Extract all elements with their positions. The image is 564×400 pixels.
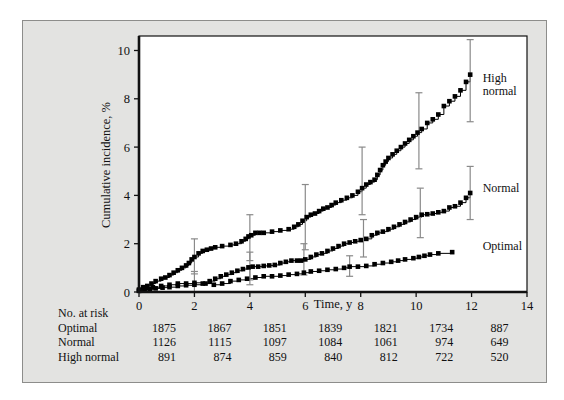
data-point-marker	[292, 224, 297, 229]
data-point-marker	[468, 191, 473, 196]
data-point-marker	[396, 258, 401, 263]
data-point-marker	[464, 196, 469, 201]
series-label: High	[483, 71, 507, 85]
data-point-marker	[364, 182, 369, 187]
data-point-marker	[372, 177, 377, 182]
data-point-marker	[364, 237, 369, 242]
data-point-marker	[261, 274, 266, 279]
data-point-marker	[163, 275, 168, 280]
data-point-marker	[336, 244, 341, 249]
data-point-marker	[353, 239, 358, 244]
data-point-marker	[389, 260, 394, 265]
data-point-marker	[425, 212, 430, 217]
data-point-marker	[241, 267, 246, 272]
data-point-marker	[212, 282, 217, 287]
data-point-marker	[345, 196, 350, 201]
data-point-marker	[245, 276, 250, 281]
data-point-marker	[333, 267, 338, 272]
data-point-marker	[213, 276, 218, 281]
data-point-marker	[228, 243, 233, 248]
data-point-marker	[422, 253, 427, 258]
risk-row-value: 1867	[197, 321, 231, 336]
data-point-marker	[425, 121, 430, 126]
data-point-marker	[249, 233, 254, 238]
data-point-marker	[270, 274, 275, 279]
data-point-marker	[368, 180, 373, 185]
risk-row-value: 1875	[142, 321, 176, 336]
data-point-marker	[442, 209, 447, 214]
data-point-marker	[273, 263, 278, 268]
data-point-marker	[464, 80, 469, 85]
data-point-marker	[196, 251, 201, 256]
data-point-marker	[246, 265, 251, 270]
data-point-marker	[458, 88, 463, 93]
data-point-marker	[325, 205, 330, 210]
data-point-marker	[321, 206, 326, 211]
data-point-marker	[403, 141, 408, 146]
data-point-marker	[394, 148, 399, 153]
data-point-marker	[399, 145, 404, 150]
data-point-marker	[257, 231, 262, 236]
data-point-marker	[184, 281, 189, 286]
data-point-marker	[325, 249, 330, 254]
data-point-marker	[358, 238, 363, 243]
data-point-marker	[176, 268, 181, 273]
data-point-marker	[314, 252, 319, 257]
data-point-marker	[411, 256, 416, 261]
data-point-marker	[159, 276, 164, 281]
data-point-marker	[167, 282, 172, 287]
data-point-marker	[167, 273, 172, 278]
data-point-marker	[342, 266, 347, 271]
data-point-marker	[408, 217, 413, 222]
data-point-marker	[278, 273, 283, 278]
data-point-marker	[403, 257, 408, 262]
risk-row-value: 891	[142, 350, 176, 365]
risk-table-title: No. at risk	[58, 306, 108, 321]
series-label: normal	[483, 84, 518, 98]
data-point-marker	[235, 268, 240, 273]
data-point-marker	[159, 284, 164, 289]
data-point-marker	[200, 249, 205, 254]
risk-table-row: Normal11261115109710841061974649	[58, 335, 528, 350]
figure-root: 024681012140246810 HighnormalNormalOptim…	[0, 0, 564, 400]
data-point-marker	[329, 203, 334, 208]
data-point-marker	[239, 239, 244, 244]
data-point-marker	[447, 205, 452, 210]
data-point-marker	[253, 275, 258, 280]
risk-row-value: 649	[475, 335, 509, 350]
data-point-marker	[209, 246, 214, 251]
risk-row-value: 859	[253, 350, 287, 365]
data-point-marker	[430, 211, 435, 216]
data-point-marker	[250, 264, 255, 269]
data-point-marker	[442, 104, 447, 109]
risk-row-label: Normal	[58, 335, 95, 350]
data-point-marker	[356, 189, 361, 194]
data-point-marker	[278, 228, 283, 233]
data-point-marker	[458, 200, 463, 205]
data-point-marker	[313, 211, 318, 216]
risk-row-value: 1821	[364, 321, 398, 336]
data-point-marker	[347, 240, 352, 245]
risk-table-row: Optimal187518671851183918211734887	[58, 321, 528, 336]
data-point-marker	[370, 233, 375, 238]
risk-row-value: 812	[364, 350, 398, 365]
data-point-marker	[144, 286, 149, 291]
y-tick-label: 2	[124, 237, 130, 251]
risk-row-value: 1061	[364, 335, 398, 350]
data-point-marker	[289, 258, 294, 263]
data-point-marker	[317, 209, 322, 214]
data-point-marker	[356, 264, 361, 269]
data-point-marker	[364, 264, 369, 269]
data-point-marker	[234, 241, 239, 246]
data-point-marker	[453, 94, 458, 99]
risk-row-value: 874	[197, 350, 231, 365]
risk-row-value: 974	[419, 335, 453, 350]
risk-row-value: 840	[308, 350, 342, 365]
risk-row-value: 1851	[253, 321, 287, 336]
data-point-marker	[203, 281, 208, 286]
data-point-marker	[286, 227, 291, 232]
y-tick-label: 8	[124, 92, 130, 106]
data-point-marker	[360, 186, 365, 191]
data-point-marker	[415, 130, 420, 135]
data-point-marker	[267, 263, 272, 268]
